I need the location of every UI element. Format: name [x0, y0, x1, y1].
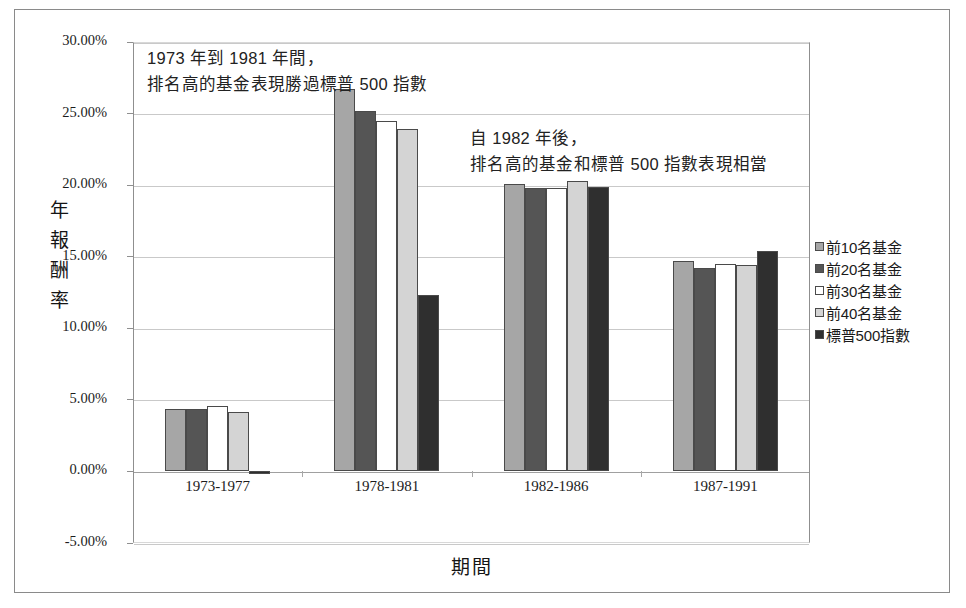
x-axis-category-label: 1987-1991: [641, 478, 810, 495]
bar: [757, 251, 778, 471]
x-axis-separator-tick: [472, 471, 473, 477]
bar: [207, 406, 228, 472]
y-axis-tick: [127, 543, 133, 544]
legend-swatch-icon: [815, 242, 824, 251]
y-axis-tick-label: 0.00%: [0, 461, 119, 478]
bar: [504, 184, 525, 472]
y-axis-tick: [127, 113, 133, 114]
x-axis-separator-tick: [641, 471, 642, 477]
legend-label: 前20名基金: [826, 258, 902, 279]
bar: [228, 412, 249, 471]
bar: [588, 187, 609, 472]
x-axis-category-label: 1973-1977: [133, 478, 302, 495]
gridline: [134, 257, 809, 258]
y-axis-title-char: 率: [45, 286, 75, 316]
bar: [567, 181, 588, 472]
annotation-1973-1981: 1973 年到 1981 年間， 排名高的基金表現勝過標普 500 指數: [147, 45, 427, 97]
legend-label: 前10名基金: [826, 236, 902, 257]
gridline: [134, 544, 809, 545]
chart-container: 年 報 酬 率 期間 30.00%25.00%20.00%15.00%10.00…: [0, 0, 966, 608]
y-axis-tick-label: 5.00%: [0, 390, 119, 407]
bar: [525, 188, 546, 471]
y-axis-tick-label: 20.00%: [0, 175, 119, 192]
bar: [186, 409, 207, 471]
legend-item[interactable]: 標普500指數: [815, 323, 927, 345]
gridline: [134, 43, 809, 44]
annotation-1982-after: 自 1982 年後， 排名高的基金和標普 500 指數表現相當: [470, 125, 768, 177]
annotation-line: 排名高的基金和標普 500 指數表現相當: [470, 151, 768, 177]
bar: [694, 268, 715, 471]
legend-swatch-icon: [815, 330, 824, 339]
legend-item[interactable]: 前30名基金: [815, 279, 927, 301]
gridline: [134, 114, 809, 115]
legend-swatch-icon: [815, 286, 824, 295]
y-axis-tick-label: 30.00%: [0, 32, 119, 49]
y-axis-tick: [127, 256, 133, 257]
legend-item[interactable]: 前40名基金: [815, 301, 927, 323]
x-axis-category-label: 1982-1986: [472, 478, 641, 495]
x-axis-category-label: 1978-1981: [302, 478, 471, 495]
annotation-line: 排名高的基金表現勝過標普 500 指數: [147, 71, 427, 97]
bar: [397, 129, 418, 471]
bar: [376, 121, 397, 472]
y-axis-tick: [127, 471, 133, 472]
gridline: [134, 186, 809, 187]
bar: [546, 188, 567, 471]
bar: [249, 471, 270, 474]
y-axis-title-char: 年: [45, 196, 75, 226]
annotation-line: 自 1982 年後，: [470, 125, 768, 151]
legend-label: 前30名基金: [826, 280, 902, 301]
bar: [673, 261, 694, 471]
y-axis-tick: [127, 328, 133, 329]
bar: [715, 264, 736, 472]
y-axis-tick: [127, 185, 133, 186]
legend-item[interactable]: 前10名基金: [815, 235, 927, 257]
y-axis-tick-label: 25.00%: [0, 104, 119, 121]
legend-item[interactable]: 前20名基金: [815, 257, 927, 279]
bar: [418, 295, 439, 472]
chart-legend: 前10名基金前20名基金前30名基金前40名基金標普500指數: [815, 233, 927, 347]
y-axis-tick-label: 15.00%: [0, 247, 119, 264]
y-axis-tick: [127, 399, 133, 400]
y-axis-tick-label: -5.00%: [0, 533, 119, 550]
y-axis-tick: [127, 42, 133, 43]
bar: [736, 265, 757, 471]
legend-swatch-icon: [815, 264, 824, 273]
bar: [165, 409, 186, 471]
annotation-line: 1973 年到 1981 年間，: [147, 45, 427, 71]
legend-label: 前40名基金: [826, 302, 902, 323]
legend-label: 標普500指數: [826, 324, 910, 345]
y-axis-tick-label: 10.00%: [0, 318, 119, 335]
bar: [355, 111, 376, 472]
x-axis-title: 期間: [133, 552, 810, 579]
legend-swatch-icon: [815, 308, 824, 317]
x-axis-separator-tick: [302, 471, 303, 477]
bar: [334, 89, 355, 471]
